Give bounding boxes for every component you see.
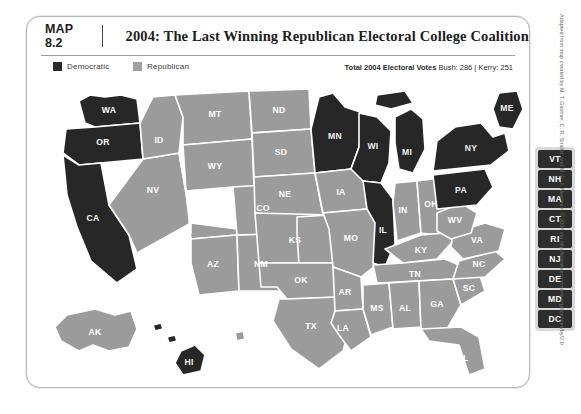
state-label-TX: TX [305,321,317,331]
state-label-SC: SC [463,283,476,293]
electoral-vote-total-values: Bush: 286 | Kerry: 251 [439,63,514,72]
state-label-NC: NC [472,259,485,269]
state-label-VA: VA [471,235,483,245]
state-label-OR: OR [96,137,110,147]
state-shape-FL[interactable] [421,327,485,375]
state-label-WY: WY [208,161,222,171]
state-label-NM: NM [254,259,268,269]
state-label-MO: MO [344,233,358,243]
state-label-NY: NY [465,143,478,153]
state-label-NE: NE [279,189,292,199]
state-label-WV: WV [448,215,462,225]
state-label-ME: ME [500,103,514,113]
state-shape-ID[interactable] [140,95,183,159]
state-label-OK: OK [294,275,308,285]
state-label-AZ: AZ [207,259,219,269]
header-divider [102,25,103,47]
state-shape-islet-a [235,331,245,341]
state-label-AK: AK [88,327,102,337]
state-label-UT: UT [205,205,218,215]
state-label-IL: IL [379,225,387,235]
legend-item-republican: Republican [133,62,189,71]
figure-credit-text: Adapted from map created by M. T. Gastne… [559,14,565,32]
legend: Democratic Republican Total 2004 Elector… [41,61,515,81]
us-map-canvas: WA OR CA NV ID MT WY UT AZ NM CO ND SD N… [33,83,523,381]
state-label-WI: WI [367,141,378,151]
electoral-vote-total: Total 2004 Electoral Votes Bush: 286 | K… [345,63,513,72]
figure-header: MAP 8.2 2004: The Last Winning Republica… [27,17,529,55]
state-label-CO: CO [256,203,270,213]
header-rule [41,55,515,56]
map-figure-card: MAP 8.2 2004: The Last Winning Republica… [26,16,530,388]
state-label-LA: LA [337,323,349,333]
state-label-HI: HI [184,357,193,367]
state-label-MN: MN [328,131,342,141]
state-label-KY: KY [415,245,428,255]
map-number-label: MAP 8.2 [45,22,102,50]
state-label-NV: NV [147,185,160,195]
state-shape-HI-isles [153,323,177,343]
state-label-IN: IN [398,205,407,215]
figure-credit: Adapted from map created by M. T. Gastne… [554,14,572,406]
legend-swatch-republican [133,62,142,71]
state-label-AR: AR [338,287,352,297]
state-label-WA: WA [102,105,116,115]
legend-swatch-democratic [53,62,62,71]
state-label-PA: PA [455,185,467,195]
state-label-OH: OH [424,199,438,209]
state-label-GA: GA [430,299,444,309]
state-label-SD: SD [275,147,288,157]
state-label-CA: CA [86,213,99,223]
state-label-AL: AL [399,303,411,313]
electoral-vote-total-heading: Total 2004 Electoral Votes [345,63,437,72]
state-label-FL: FL [457,353,468,363]
legend-item-democratic: Democratic [53,62,109,71]
state-label-TN: TN [409,269,421,279]
state-label-IA: IA [336,187,345,197]
state-label-MS: MS [370,303,384,313]
page-title: 2004: The Last Winning Republican Electo… [125,28,529,45]
legend-label-democratic: Democratic [67,62,109,71]
state-label-ND: ND [272,105,285,115]
legend-label-republican: Republican [147,62,189,71]
state-label-KS: KS [289,235,302,245]
us-map-svg: WA OR CA NV ID MT WY UT AZ NM CO ND SD N… [33,83,523,381]
state-label-MI: MI [402,147,412,157]
state-label-MT: MT [208,109,221,119]
state-label-ID: ID [154,135,163,145]
